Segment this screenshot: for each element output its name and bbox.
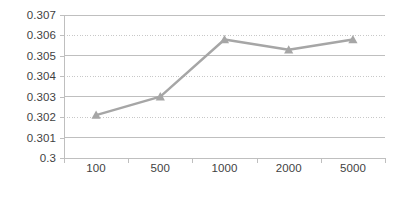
x-tick-label: 5000 (321, 163, 385, 187)
x-axis-tick-labels: 100 500 1000 2000 5000 (64, 163, 385, 187)
x-tick-label: 1000 (192, 163, 256, 187)
x-tick-label: 2000 (257, 163, 321, 187)
line-chart: 0.307 0.306 0.305 0.304 0.303 0.302 0.30… (0, 0, 397, 197)
x-tick-label: 100 (64, 163, 128, 187)
x-tick-label: 500 (128, 163, 192, 187)
